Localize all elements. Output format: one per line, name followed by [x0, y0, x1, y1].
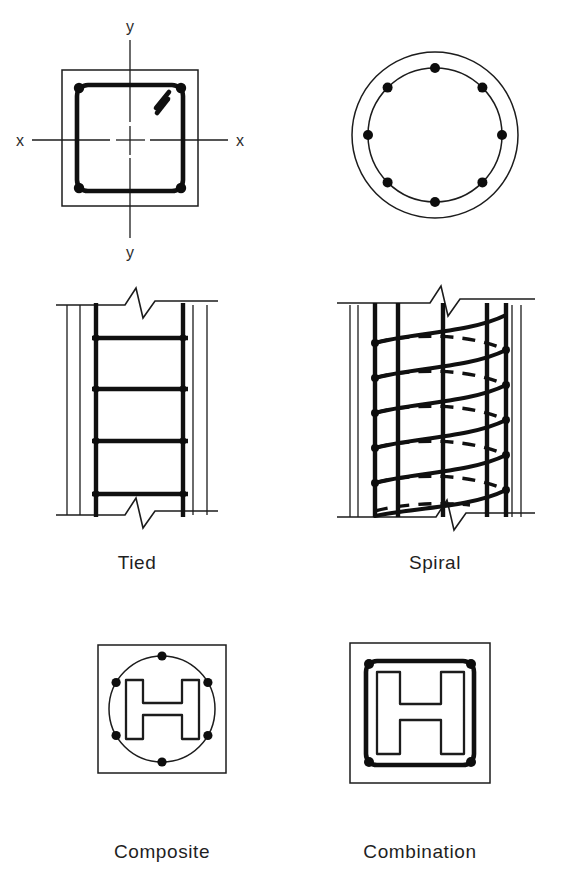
tie-intersection	[180, 386, 187, 393]
spiral-intersection	[371, 479, 379, 487]
rebar-dot	[157, 757, 166, 766]
axis-label-y-top: y	[126, 18, 134, 35]
figure-spiral-cross-section	[352, 52, 518, 218]
caption-composite: Composite	[114, 841, 210, 862]
rebar-dot	[364, 757, 374, 767]
rebar-dot	[176, 183, 186, 193]
tie-stirrup	[366, 661, 474, 765]
spiral-intersection	[371, 444, 379, 452]
spiral-intersection	[502, 381, 510, 389]
tie-intersection	[180, 438, 187, 445]
rebar-dot	[74, 83, 84, 93]
spiral-intersection	[502, 416, 510, 424]
rebar-dot	[383, 177, 393, 187]
figure-spiral-elevation: Spiral	[337, 286, 535, 573]
tie-intersection	[93, 386, 100, 393]
caption-spiral: Spiral	[409, 552, 461, 573]
rebar-dot	[176, 83, 186, 93]
rebar-dot	[477, 177, 487, 187]
steel-h-section	[377, 672, 464, 754]
rebar-dot	[466, 757, 476, 767]
figure-composite-cross-section: Composite	[98, 645, 226, 862]
rebar-dot	[112, 678, 121, 687]
axis-label-y-bottom: y	[126, 244, 134, 261]
rebar-dot	[430, 63, 440, 73]
figure-tied-cross-section: y y x x	[16, 18, 244, 261]
rebar-dot	[477, 83, 487, 93]
figure-combination-cross-section: Combination	[350, 643, 490, 862]
spiral-intersection	[371, 339, 379, 347]
caption-tied: Tied	[118, 552, 157, 573]
rebar-dot	[430, 197, 440, 207]
tie-intersection	[180, 491, 187, 498]
axis-label-x-right: x	[236, 132, 244, 149]
tie-intersection	[93, 335, 100, 342]
rebar-dot	[203, 731, 212, 740]
rebar-dot	[112, 731, 121, 740]
rebar-dot	[364, 659, 374, 669]
concrete-outline-circle	[352, 52, 518, 218]
spiral-intersection	[371, 409, 379, 417]
rebar-dot	[497, 130, 507, 140]
spiral-intersection	[502, 346, 510, 354]
rebar-dot	[74, 183, 84, 193]
caption-combination: Combination	[363, 841, 476, 862]
steel-h-section	[126, 680, 199, 739]
rebar-dot	[383, 83, 393, 93]
concrete-outline-square	[98, 645, 226, 773]
figure-tied-elevation: Tied	[56, 288, 218, 573]
rebar-dot	[203, 678, 212, 687]
column-types-figure-sheet: y y x x	[0, 0, 566, 888]
spiral-intersection	[502, 486, 510, 494]
tie-hook-detail	[156, 92, 169, 113]
rebar-dot	[363, 130, 373, 140]
rebar-dot	[466, 659, 476, 669]
rebar-dot	[157, 651, 166, 660]
tie-intersection	[180, 335, 187, 342]
axis-label-x-left: x	[16, 132, 24, 149]
spiral-intersection	[371, 374, 379, 382]
spiral-intersection	[502, 451, 510, 459]
tie-intersection	[93, 438, 100, 445]
tie-intersection	[93, 491, 100, 498]
